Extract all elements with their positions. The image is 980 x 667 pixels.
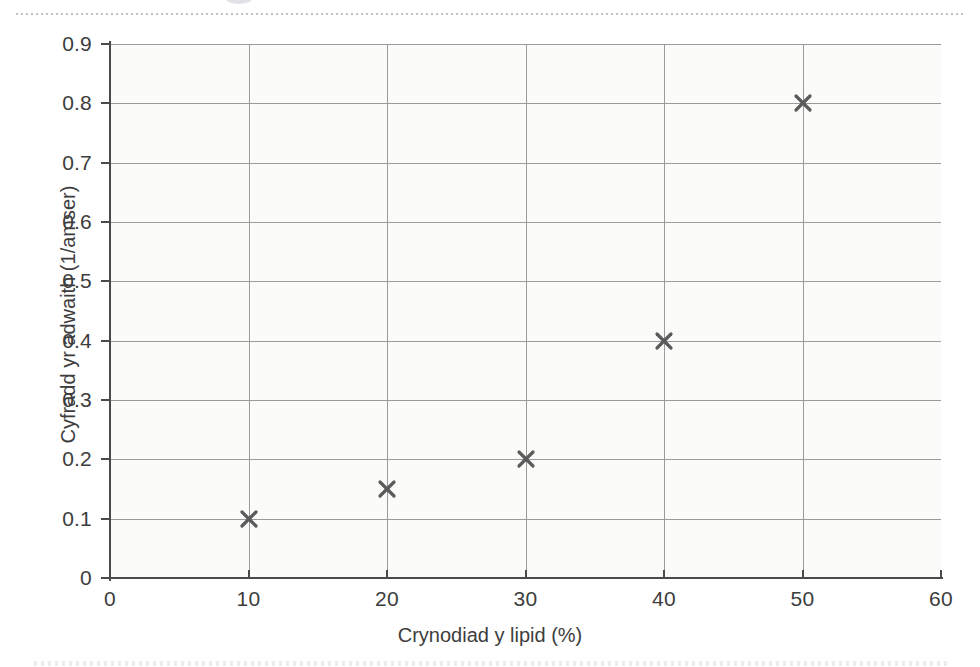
x-axis-tick-label: 20 — [357, 588, 417, 609]
y-axis-tick-label: 0.7 — [22, 152, 92, 173]
scatter-chart-figure: Cyfradd yr adwaith (1/amser) Crynodiad y… — [0, 0, 980, 667]
scan-artifact-bottom-rule — [34, 661, 949, 666]
x-axis-tick-label: 40 — [634, 588, 694, 609]
x-gridline — [664, 44, 665, 578]
x-axis-tick — [525, 570, 527, 579]
x-gridline — [249, 44, 250, 578]
y-axis-tick-label: 0.4 — [22, 330, 92, 351]
y-axis-tick — [101, 458, 111, 460]
y-axis-tick — [101, 340, 111, 342]
data-point-x-marker — [649, 326, 679, 356]
x-gridline — [803, 44, 804, 578]
y-axis-tick-label: 0.8 — [22, 92, 92, 113]
x-axis-tick — [663, 570, 665, 579]
y-axis-tick — [101, 518, 111, 520]
x-axis-tick-label: 60 — [911, 588, 971, 609]
y-axis-tick-label: 0.2 — [22, 448, 92, 469]
data-point-x-marker — [788, 88, 818, 118]
y-axis-tick — [101, 102, 111, 104]
x-axis-tick-label: 10 — [219, 588, 279, 609]
y-axis-tick-label: 0.1 — [22, 508, 92, 529]
x-axis-tick — [802, 570, 804, 579]
y-axis-tick-label: 0.9 — [22, 33, 92, 54]
y-axis-tick-label: 0.5 — [22, 270, 92, 291]
x-axis-title-text: Crynodiad y lipid (%) — [0, 624, 980, 647]
data-point-x-marker — [234, 504, 264, 534]
y-axis-tick — [101, 221, 111, 223]
x-gridline — [526, 44, 527, 578]
x-axis-tick — [109, 570, 111, 579]
y-axis-tick — [101, 162, 111, 164]
data-point-x-marker — [511, 444, 541, 474]
y-axis-tick-label: 0.6 — [22, 211, 92, 232]
y-axis-tick-label: 0 — [22, 567, 92, 588]
x-axis-tick-label: 0 — [80, 588, 140, 609]
x-axis-tick — [940, 570, 942, 579]
x-axis-tick-label: 30 — [496, 588, 556, 609]
data-point-x-marker — [372, 474, 402, 504]
y-axis-tick — [101, 280, 111, 282]
y-axis-title-text: Cyfradd yr adwaith (1/amser) — [57, 75, 80, 555]
y-axis-tick-label: 0.3 — [22, 389, 92, 410]
y-axis-line — [109, 41, 111, 581]
plot-area — [110, 44, 941, 578]
y-axis-tick — [101, 399, 111, 401]
x-axis-tick-label: 50 — [773, 588, 833, 609]
x-axis-tick — [248, 570, 250, 579]
y-axis-tick — [101, 43, 111, 45]
x-axis-tick — [386, 570, 388, 579]
